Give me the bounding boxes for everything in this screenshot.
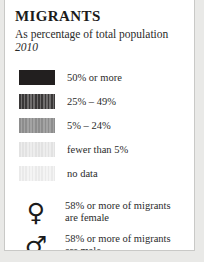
gender-label-line2: are male — [65, 245, 171, 251]
gender-label-line1: 58% or more of migrants — [65, 233, 171, 245]
legend-subtitle: As percentage of total population — [15, 27, 194, 41]
legend-item: no data — [5, 162, 194, 186]
swatch-5-to-24 — [19, 118, 55, 133]
map-legend-panel: MIGRANTS As percentage of total populati… — [4, 0, 195, 251]
legend-gender-list: ♀ 58% or more of migrants are female ♂ 5… — [5, 196, 194, 251]
legend-item-label: fewer than 5% — [67, 144, 128, 156]
venus-icon: ♀ — [19, 200, 53, 225]
gender-label-line2: are female — [65, 212, 171, 224]
gender-item-label: 58% or more of migrants are female — [65, 200, 171, 225]
gender-label-line1: 58% or more of migrants — [65, 200, 171, 212]
mars-icon: ♂ — [19, 233, 53, 251]
swatch-no-data — [19, 166, 55, 181]
legend-item: 5% – 24% — [5, 114, 194, 138]
legend-item-label: 5% – 24% — [67, 120, 111, 132]
legend-year: 2010 — [15, 41, 194, 55]
legend-item: 50% or more — [5, 66, 194, 90]
legend-item-label: 25% – 49% — [67, 96, 116, 108]
legend-item-label: 50% or more — [67, 72, 122, 84]
legend-gender-item-male: ♂ 58% or more of migrants are male — [5, 229, 194, 251]
legend-item-label: no data — [67, 168, 98, 180]
swatch-25-to-49 — [19, 94, 55, 109]
legend-item: fewer than 5% — [5, 138, 194, 162]
gender-item-label: 58% or more of migrants are male — [65, 233, 171, 251]
swatch-fewer-than-5 — [19, 142, 55, 157]
legend-item: 25% – 49% — [5, 90, 194, 114]
swatch-50-or-more — [19, 70, 55, 85]
legend-swatch-list: 50% or more 25% – 49% 5% – 24% fewer tha… — [5, 66, 194, 186]
legend-header: MIGRANTS As percentage of total populati… — [5, 0, 194, 55]
legend-gender-item-female: ♀ 58% or more of migrants are female — [5, 196, 194, 229]
legend-title: MIGRANTS — [15, 9, 194, 25]
